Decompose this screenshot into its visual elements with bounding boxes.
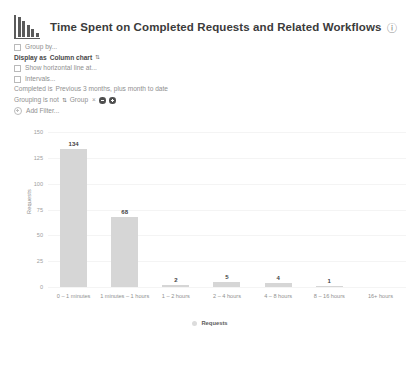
legend-marker-icon	[192, 321, 197, 326]
x-axis-labels: 0 – 1 minutes1 minutes – 1 hours1 – 2 ho…	[48, 292, 406, 300]
legend-label[interactable]: Requests	[201, 320, 227, 326]
chart-legend: Requests	[0, 320, 420, 326]
bar-slot: 134	[48, 132, 99, 287]
remove-chip-icon[interactable]: ×	[92, 97, 96, 104]
widget-header: Time Spent on Completed Requests and Rel…	[0, 0, 420, 34]
bar[interactable]: 134	[60, 149, 87, 287]
info-icon[interactable]: ⓘ	[387, 20, 397, 35]
option-show-horizontal-line[interactable]: Show horizontal line at...	[14, 63, 420, 74]
x-axis-label: 1 – 2 hours	[150, 292, 201, 300]
bar-slot: 4	[253, 132, 304, 287]
filter-grouping[interactable]: Grouping is not ⇅ Group ×	[14, 95, 420, 106]
bar-value-label: 134	[69, 141, 79, 147]
filter-completed-value[interactable]: Previous 3 months, plus month to date	[55, 86, 168, 93]
y-axis-title: Requests	[24, 124, 34, 279]
option-group-by[interactable]: Group by...	[14, 42, 420, 53]
y-axis-tick: 150	[34, 129, 43, 135]
x-axis-label: 8 – 16 hours	[304, 292, 355, 300]
bar-value-label: 2	[174, 277, 177, 283]
bar-slot: 2	[150, 132, 201, 287]
bar-chart-icon	[14, 15, 40, 39]
bar-value-label: 1	[328, 278, 331, 284]
option-intervals-label: Intervals...	[25, 76, 55, 83]
bar-slot	[355, 132, 406, 287]
x-axis-label: 4 – 8 hours	[253, 292, 304, 300]
x-axis-label: 0 – 1 minutes	[48, 292, 99, 300]
option-display-as-label: Display as	[14, 55, 47, 62]
gridline	[48, 287, 406, 288]
checkbox-icon[interactable]	[14, 65, 21, 72]
minus-circle-icon[interactable]	[99, 97, 106, 104]
option-intervals[interactable]: Intervals...	[14, 74, 420, 85]
checkbox-icon[interactable]	[14, 44, 21, 51]
y-axis-tick: 50	[37, 232, 43, 238]
y-axis-tick: 25	[37, 258, 43, 264]
checkbox-icon[interactable]	[14, 76, 21, 83]
chart-area: Requests 1501251007550250 134682541 0 – …	[0, 124, 420, 336]
x-axis-label: 2 – 4 hours	[201, 292, 252, 300]
bar-value-label: 5	[225, 274, 228, 280]
bar[interactable]: 68	[111, 217, 138, 287]
filter-completed-label: Completed is	[14, 86, 52, 93]
filter-grouping-value[interactable]: Group	[70, 97, 88, 104]
bar-slot: 1	[304, 132, 355, 287]
plus-circle-icon[interactable]	[109, 97, 116, 104]
bar[interactable]: 5	[213, 282, 240, 287]
bar-value-label: 4	[276, 275, 279, 281]
chevron-updown-icon[interactable]: ⇅	[62, 98, 67, 104]
y-axis-tick: 125	[34, 155, 43, 161]
bar[interactable]: 2	[162, 285, 189, 287]
option-group-by-label: Group by...	[25, 44, 57, 51]
filter-options: Group by... Display as Column chart ⇅ Sh…	[0, 34, 420, 116]
add-filter-button[interactable]: Add Filter...	[14, 106, 420, 117]
plus-circle-icon	[14, 107, 22, 115]
x-axis-label: 16+ hours	[355, 292, 406, 300]
bar-series: 134682541	[48, 132, 406, 287]
bar-value-label: 68	[121, 209, 128, 215]
y-axis-tick: 75	[37, 207, 43, 213]
filter-completed[interactable]: Completed is Previous 3 months, plus mon…	[14, 84, 420, 95]
option-show-horizontal-line-label: Show horizontal line at...	[25, 65, 97, 72]
option-display-as-value[interactable]: Column chart	[50, 55, 93, 62]
plot-region: 1501251007550250 134682541	[48, 132, 406, 287]
bar-slot: 68	[99, 132, 150, 287]
option-display-as[interactable]: Display as Column chart ⇅	[14, 53, 420, 64]
add-filter-label: Add Filter...	[26, 108, 59, 115]
y-axis-tick: 100	[34, 181, 43, 187]
filter-grouping-label: Grouping is not	[14, 97, 59, 104]
page-title: Time Spent on Completed Requests and Rel…	[50, 21, 382, 33]
x-axis-label: 1 minutes – 1 hours	[99, 292, 150, 300]
bar[interactable]: 4	[265, 283, 292, 287]
chart-widget: Time Spent on Completed Requests and Rel…	[0, 0, 420, 376]
y-axis-tick: 0	[40, 284, 43, 290]
chevron-updown-icon[interactable]: ⇅	[95, 55, 100, 61]
bar-slot: 5	[201, 132, 252, 287]
bar[interactable]: 1	[316, 286, 343, 288]
